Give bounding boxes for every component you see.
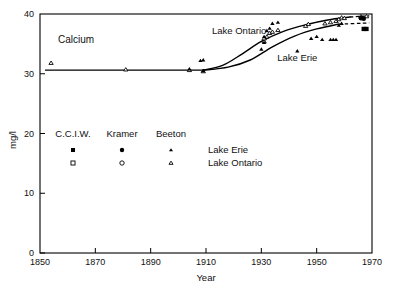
x-tick-label: 1890: [141, 257, 161, 267]
chart-legend: C.C.I.W.KramerBeetonLake ErieLake Ontari…: [55, 128, 262, 168]
marker-circle-filled: [361, 16, 366, 21]
y-axis-title: mg/l: [7, 131, 18, 149]
y-tick-label: 0: [29, 248, 34, 258]
marker-triangle-open: [169, 161, 173, 164]
x-tick-label: 1950: [307, 257, 327, 267]
marker-triangle-open: [124, 68, 128, 71]
marker-triangle-open: [270, 30, 274, 33]
x-tick-label: 1910: [196, 257, 216, 267]
marker-square-filled: [71, 148, 75, 152]
x-axis-title: Year: [196, 272, 215, 283]
marker-circle-filled: [120, 148, 124, 152]
y-tick-label: 30: [24, 69, 34, 79]
x-tick-label: 1850: [30, 257, 50, 267]
marker-triangle-open: [306, 22, 310, 25]
annotation-lake-erie: Lake Erie: [277, 52, 317, 63]
series-lake-ontario: [49, 14, 369, 72]
marker-square-filled: [364, 27, 368, 31]
marker-circle-open: [120, 161, 124, 165]
data-points: [49, 14, 369, 72]
y-tick-label: 10: [24, 188, 34, 198]
marker-triangle-filled: [259, 47, 263, 50]
legend-label-lake-ontario: Lake Ontario: [208, 157, 262, 168]
marker-triangle-filled: [201, 58, 205, 61]
x-tick-label: 1870: [85, 257, 105, 267]
figure-caption-fragment: [4, 288, 395, 298]
legend-source-kramer: Kramer: [106, 128, 137, 139]
x-tick-label: 1970: [362, 257, 382, 267]
legend-source-beeton: Beeton: [156, 128, 186, 139]
series-c-c-i-w-: [362, 27, 369, 31]
marker-triangle-filled: [334, 38, 338, 41]
y-tick-label: 20: [24, 129, 34, 139]
axis-ticks: [40, 74, 317, 253]
marker-triangle-filled: [270, 22, 274, 25]
marker-triangle-filled: [315, 35, 319, 38]
chart-canvas: 1850187018901910193019501970010203040 La…: [0, 0, 399, 299]
legend-source-c-c-i-w-: C.C.I.W.: [55, 128, 90, 139]
x-tick-label: 1930: [251, 257, 271, 267]
marker-triangle-filled: [320, 38, 324, 41]
marker-triangle-filled: [309, 37, 313, 40]
annotation-lake-ontario: Lake Ontario: [212, 25, 266, 36]
marker-triangle-open: [323, 22, 327, 25]
marker-triangle-filled: [339, 22, 343, 25]
marker-triangle-filled: [267, 26, 271, 29]
trend-line: [339, 23, 369, 24]
legend-label-lake-erie: Lake Erie: [208, 144, 248, 155]
marker-triangle-filled: [276, 20, 280, 23]
calcium-figure: 1850187018901910193019501970010203040 La…: [0, 0, 399, 299]
marker-square-open: [71, 161, 75, 165]
plot-title: Calcium: [58, 34, 94, 45]
marker-triangle-open: [328, 20, 332, 23]
marker-triangle-open: [276, 28, 280, 31]
marker-triangle-open: [342, 16, 346, 19]
marker-triangle-open: [49, 61, 53, 64]
marker-triangle-filled: [187, 67, 191, 70]
y-tick-label: 40: [24, 9, 34, 19]
marker-triangle-filled: [169, 148, 173, 151]
